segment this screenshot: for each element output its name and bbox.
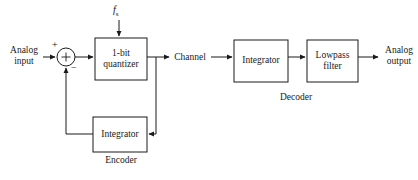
lowpass-line2: filter xyxy=(323,61,341,71)
lowpass-filter-label: Lowpass filter xyxy=(307,50,358,71)
analog-output-line1: Analog xyxy=(385,45,413,55)
plus-sign: + xyxy=(52,41,58,49)
decoder-caption: Decoder xyxy=(270,92,322,103)
diagram-canvas xyxy=(0,0,418,180)
minus-sign: − xyxy=(71,64,77,72)
analog-output-line2: output xyxy=(387,56,411,66)
delta-sigma-block-diagram: Analog input + − fs 1-bit quantizer Chan… xyxy=(0,0,418,180)
fs-subscript: s xyxy=(116,10,119,18)
encoder-caption: Encoder xyxy=(95,155,147,166)
quantizer-line1: 1-bit xyxy=(112,48,130,58)
quantizer-label: 1-bit quantizer xyxy=(95,48,147,69)
quantizer-line2: quantizer xyxy=(103,59,138,69)
sampling-frequency-label: fs xyxy=(113,4,119,18)
analog-output-label: Analog output xyxy=(380,45,418,66)
analog-input-label: Analog input xyxy=(4,45,44,66)
lowpass-line1: Lowpass xyxy=(316,50,350,60)
decoder-integrator-label: Integrator xyxy=(234,55,288,66)
channel-label: Channel xyxy=(170,52,210,63)
analog-input-line1: Analog xyxy=(10,45,38,55)
feedback-integrator-label: Integrator xyxy=(93,129,147,140)
analog-input-line2: input xyxy=(14,56,34,66)
